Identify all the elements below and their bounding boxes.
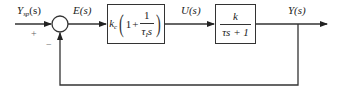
control-signal-label: U(s) — [181, 5, 201, 16]
controller-gain: kc — [109, 17, 117, 31]
plant-block: k τs + 1 — [215, 4, 256, 44]
controller-plus: + — [132, 18, 138, 30]
controller-block: kc ( 1 + 1 τIs ) — [107, 4, 165, 44]
input-label: Ysp(s) — [17, 5, 41, 18]
feedback-path — [60, 24, 298, 85]
plus-sign: + — [31, 29, 37, 39]
output-label: Y(s) — [288, 5, 306, 16]
minus-sign: − — [46, 40, 52, 50]
integral-fraction: 1 τIs — [140, 9, 155, 39]
block-diagram: Ysp(s) + − E(s) kc ( 1 + 1 τIs ) U(s) k … — [0, 0, 345, 91]
left-paren: ( — [119, 11, 124, 37]
plant-transfer-function: k τs + 1 — [220, 10, 251, 38]
right-paren: ) — [156, 11, 161, 37]
controller-one: 1 — [126, 18, 132, 30]
error-label: E(s) — [73, 5, 91, 16]
summing-junction — [52, 16, 68, 32]
